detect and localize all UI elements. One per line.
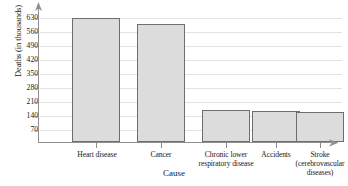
y-axis-title: Deaths (in thousands) (13, 0, 27, 101)
y-axis-line (38, 8, 39, 142)
x-axis-title: Cause (0, 168, 348, 178)
y-tickmark-490 (34, 46, 39, 47)
x-tickmark-accidents (276, 143, 277, 148)
x-axis-arrow-icon (329, 138, 339, 148)
bar-accidents (252, 111, 300, 142)
bar-heart-disease (72, 18, 120, 142)
y-tickmark-630 (34, 18, 39, 19)
x-category-line: Heart disease (52, 150, 142, 159)
y-tickmark-70 (34, 130, 39, 131)
y-axis-arrow-icon (33, 2, 44, 12)
bar-chronic-lower-respiratory-disease (202, 110, 250, 142)
y-tickmark-140 (34, 116, 39, 117)
bar-chart-figure: 630 560 490 420 350 280 210 140 70 (0, 0, 348, 186)
y-tickmark-350 (34, 74, 39, 75)
x-tickmark-chronic-lower-respiratory-disease (226, 143, 227, 148)
x-tickmark-cancer (161, 143, 162, 148)
y-tickmark-420 (34, 60, 39, 61)
bar-cancer (137, 24, 185, 142)
y-tickmark-560 (34, 32, 39, 33)
x-category-line: Stroke (274, 150, 348, 159)
y-tickmark-280 (34, 88, 39, 89)
x-category-label-heart-disease: Heart disease (52, 150, 142, 159)
x-tickmark-heart-disease (96, 143, 97, 148)
x-axis-line (38, 142, 331, 143)
x-tickmark-stroke (320, 143, 321, 148)
y-tickmark-210 (34, 102, 39, 103)
